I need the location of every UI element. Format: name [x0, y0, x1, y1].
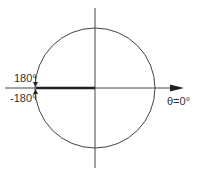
angle-diagram: 180° -180° θ=0° — [0, 0, 197, 178]
label-minus-180: -180° — [10, 92, 36, 104]
label-180: 180° — [14, 72, 37, 84]
horizontal-axis-arrowhead — [170, 85, 184, 92]
label-theta-zero: θ=0° — [167, 95, 190, 107]
